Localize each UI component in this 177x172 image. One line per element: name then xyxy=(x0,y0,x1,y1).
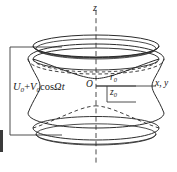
r0-label: r0 xyxy=(110,73,117,84)
voltage-u-base: U xyxy=(13,81,21,92)
voltage-source-label: U0+V0cosΩt xyxy=(13,82,65,94)
upper-endcap-electrode xyxy=(33,35,159,79)
voltage-time: t xyxy=(62,81,65,92)
voltage-omega: Ω xyxy=(54,81,62,92)
z-axis-label: z xyxy=(93,3,97,13)
voltage-cos: cos xyxy=(40,81,54,92)
z0-label: z0 xyxy=(110,88,117,99)
origin-label: O xyxy=(86,80,93,90)
z0-sub: 0 xyxy=(114,91,117,98)
r0-sub: 0 xyxy=(114,76,117,83)
xy-axis-label: x, y xyxy=(155,79,168,89)
scan-edge-artifact xyxy=(0,130,3,152)
ion-trap-figure: U0+V0cosΩt z x, y O r0 z0 xyxy=(0,0,177,172)
